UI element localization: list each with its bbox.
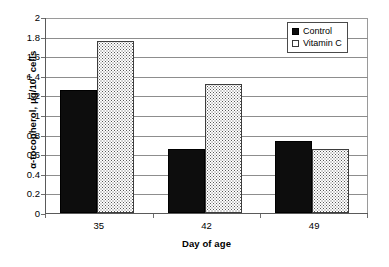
- y-tick-label: 0.8: [27, 131, 40, 141]
- bar-control-day-49: [275, 141, 312, 213]
- y-tick-label: 1: [35, 111, 40, 121]
- legend: Control Vitamin C: [287, 22, 348, 53]
- legend-label-vitamin-c: Vitamin C: [303, 39, 342, 48]
- y-tick-label: 1.6: [27, 52, 40, 62]
- x-axis-title: Day of age: [45, 238, 368, 249]
- bar-chart: α-tocopherol, μg/107 cells 00.20.40.60.8…: [0, 0, 389, 267]
- bar-vitamin-c-day-35: [97, 41, 134, 213]
- legend-item-control: Control: [292, 25, 342, 37]
- legend-swatch-vitamin-c-icon: [292, 40, 299, 47]
- y-tick-label: 1.8: [27, 33, 40, 43]
- bar-control-day-42: [168, 149, 205, 213]
- bar-control-day-35: [60, 90, 97, 213]
- x-tick-mark: [367, 214, 368, 218]
- x-tick-label: 42: [201, 221, 212, 231]
- y-tick-label: 0.6: [27, 150, 40, 160]
- y-axis-ticks: 00.20.40.60.811.21.41.61.82: [0, 18, 45, 214]
- legend-item-vitamin-c: Vitamin C: [292, 37, 342, 49]
- x-axis-ticks: 354249: [45, 214, 368, 236]
- legend-label-control: Control: [303, 27, 332, 36]
- bar-vitamin-c-day-42: [205, 84, 242, 213]
- x-tick-mark: [260, 214, 261, 218]
- legend-swatch-control-icon: [292, 28, 299, 35]
- y-tick-label: 1.4: [27, 72, 40, 82]
- y-tick-label: 0.4: [27, 170, 40, 180]
- x-tick-label: 35: [94, 221, 105, 231]
- y-tick-label: 1.2: [27, 92, 40, 102]
- y-tick-label: 0.2: [27, 190, 40, 200]
- bar-vitamin-c-day-49: [312, 149, 349, 213]
- x-tick-label: 49: [309, 221, 320, 231]
- bar-group: [60, 18, 134, 213]
- bar-group: [168, 18, 242, 213]
- x-tick-mark: [153, 214, 154, 218]
- y-tick-label: 0: [35, 209, 40, 219]
- y-tick-label: 2: [35, 13, 40, 23]
- x-tick-mark: [45, 214, 46, 218]
